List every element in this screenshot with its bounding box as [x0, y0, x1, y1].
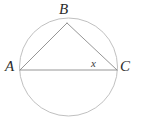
geometry-figure: A B C x — [0, 0, 141, 124]
vertex-label-c: C — [120, 59, 130, 74]
vertex-label-b: B — [59, 2, 68, 17]
vertex-label-a: A — [5, 59, 14, 74]
triangle-side-ab — [20, 23, 67, 70]
angle-label-x: x — [91, 58, 96, 69]
circumcircle — [20, 18, 118, 116]
